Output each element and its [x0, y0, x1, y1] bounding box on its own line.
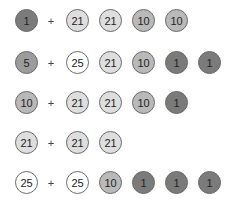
left-coin: 1: [15, 9, 38, 32]
equation-row: 10+2121101: [0, 91, 231, 117]
right-coin: 21: [99, 9, 122, 32]
coin-value: 1: [140, 177, 146, 189]
equation-row: 5+25211011: [0, 51, 231, 77]
plus-sign: +: [46, 9, 56, 32]
coin-value: 1: [23, 15, 29, 27]
coin-value: 5: [23, 57, 29, 69]
coin-value: 25: [71, 177, 83, 189]
coin-value: 1: [206, 57, 212, 69]
plus-sign: +: [46, 51, 56, 74]
right-coin: 25: [66, 171, 89, 194]
coin-value: 21: [104, 97, 116, 109]
right-coin: 21: [99, 91, 122, 114]
coin-value: 10: [137, 97, 149, 109]
coin-value: 21: [104, 137, 116, 149]
left-coin: 21: [15, 131, 38, 154]
right-coin: 21: [66, 9, 89, 32]
right-coin: 21: [99, 51, 122, 74]
right-coin: 1: [165, 51, 188, 74]
coin-value: 21: [71, 15, 83, 27]
coin-value: 21: [104, 57, 116, 69]
right-coin: 1: [165, 171, 188, 194]
coin-value: 1: [173, 177, 179, 189]
coin-value: 1: [206, 177, 212, 189]
right-coin: 1: [132, 171, 155, 194]
left-coin: 25: [15, 171, 38, 194]
coin-value: 21: [104, 15, 116, 27]
right-coin: 10: [165, 9, 188, 32]
plus-sign: +: [46, 91, 56, 114]
coin-value: 21: [71, 97, 83, 109]
right-coin: 10: [132, 91, 155, 114]
plus-sign: +: [46, 131, 56, 154]
left-coin: 5: [15, 51, 38, 74]
coin-value: 10: [104, 177, 116, 189]
coin-value: 1: [173, 57, 179, 69]
right-coin: 1: [165, 91, 188, 114]
right-coin: 25: [66, 51, 89, 74]
coin-value: 10: [137, 57, 149, 69]
equation-row: 1+21211010: [0, 9, 231, 35]
plus-sign: +: [46, 171, 56, 194]
right-coin: 21: [99, 131, 122, 154]
coin-value: 1: [173, 97, 179, 109]
right-coin: 21: [66, 131, 89, 154]
equation-row: 25+2510111: [0, 171, 231, 197]
coin-value: 10: [20, 97, 32, 109]
coin-value: 10: [137, 15, 149, 27]
right-coin: 21: [66, 91, 89, 114]
right-coin: 10: [132, 9, 155, 32]
coin-value: 21: [20, 137, 32, 149]
right-coin: 1: [198, 171, 221, 194]
right-coin: 1: [198, 51, 221, 74]
coin-value: 10: [170, 15, 182, 27]
right-coin: 10: [132, 51, 155, 74]
coin-value: 21: [71, 137, 83, 149]
left-coin: 10: [15, 91, 38, 114]
coin-value: 25: [71, 57, 83, 69]
coin-value: 25: [20, 177, 32, 189]
right-coin: 10: [99, 171, 122, 194]
equation-row: 21+2121: [0, 131, 231, 157]
